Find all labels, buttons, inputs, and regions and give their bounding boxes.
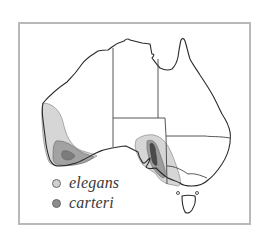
legend-item-carteri: carteri [52, 193, 119, 213]
qld-nsw-border [166, 136, 230, 138]
elegans-swatch-icon [52, 179, 61, 188]
legend-item-elegans: elegans [52, 173, 119, 193]
legend-label: carteri [69, 194, 114, 212]
island-dot [196, 192, 199, 195]
australia-map [0, 0, 263, 242]
carteri-swatch-icon [52, 199, 61, 208]
legend: elegans carteri [52, 173, 119, 213]
legend-label: elegans [69, 174, 119, 192]
island-dot [177, 192, 180, 195]
sa-qld-border [165, 118, 166, 136]
tasmania-coastline [182, 195, 195, 213]
